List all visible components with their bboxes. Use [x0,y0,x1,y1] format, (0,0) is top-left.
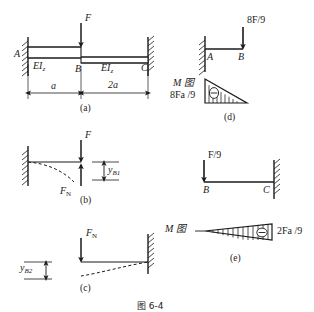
panel-a-node-c: C [141,63,148,73]
panel-c-caption: (c) [80,284,91,294]
panel-e-moment-value: 2Fa /9 [277,226,302,236]
support-hatch-d [199,40,205,75]
panel-a-node-a: A [14,49,20,59]
panel-a-dim-left: a [51,81,56,91]
panel-d-caption: (d) [224,113,235,123]
support-hatch-right [148,36,154,71]
panel-c-deflection-label: yB2 [20,263,32,275]
figure-caption: 图 6-4 [137,302,164,311]
panel-e-graphics [195,159,280,240]
support-hatch-b [22,150,28,185]
support-hatch-c [148,233,154,268]
panel-a-stiffness-right: EIz [101,63,113,75]
panel-e-load-label: F/9 [208,150,221,160]
panel-e-caption: (e) [230,254,241,264]
panel-b-load-label: F [85,130,91,140]
panel-d-load-label: 8F/9 [247,15,265,25]
dimension-extensions [28,64,148,99]
figure-vector-layer [0,0,314,312]
panel-a-node-b: B [75,64,81,74]
panel-a-dim-right: 2a [108,80,118,90]
stepped-beam-body [28,47,148,63]
panel-b-graphics [22,140,119,186]
deflected-shape-c [81,262,148,276]
panel-e-node-b: B [203,185,209,195]
panel-d-node-b: B [238,52,244,62]
panel-d-diagram-title: M 图 [173,78,194,88]
panel-a-stiffness-left: EIz [33,61,45,73]
panel-c-graphics [24,233,154,279]
panel-b-deflection-label: yB1 [108,165,120,177]
panel-e-node-c: C [263,185,270,195]
panel-e-diagram-title: M 图 [165,224,186,234]
panel-a-caption: (a) [80,104,91,114]
panel-c-reaction-label: FN [86,228,97,240]
panel-d-graphics [199,27,247,103]
panel-d-moment-value: 8Fa /9 [170,90,195,100]
support-hatch-left [22,41,28,76]
panel-a-load-label: F [85,13,91,23]
panel-b-caption: (b) [80,196,91,206]
panel-d-node-a: A [207,52,213,62]
deflected-shape-b [28,162,74,182]
figure-container: F A B C EIz EIz a 2a (a) F FN yB1 (b) FN… [0,0,314,312]
support-hatch-e [274,159,280,194]
panel-b-reaction-label: FN [60,186,71,198]
